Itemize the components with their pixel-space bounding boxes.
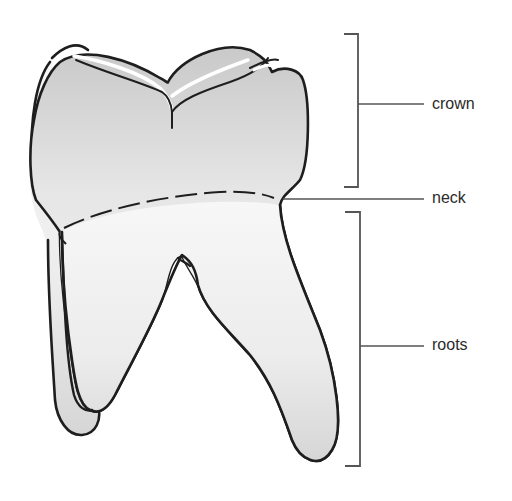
- tooth-diagram: [0, 0, 512, 501]
- crown-bracket: [344, 34, 424, 187]
- roots-label: roots: [432, 337, 468, 353]
- crown-label: crown: [432, 96, 475, 112]
- roots-bracket: [345, 212, 424, 466]
- tooth-body: [30, 47, 338, 461]
- neck-label: neck: [432, 190, 466, 206]
